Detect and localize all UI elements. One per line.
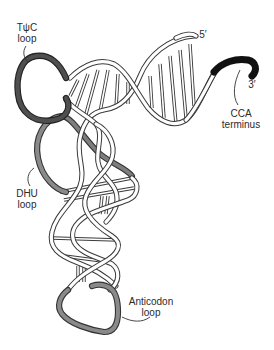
tpsic-loop — [18, 56, 69, 121]
cca-terminus-label: CCA terminus — [216, 108, 266, 130]
cca-label-line1: CCA — [216, 108, 266, 119]
cca-terminus — [214, 60, 255, 77]
three-prime-text: 3′ — [245, 79, 259, 90]
tpsic-label-line1: TψC — [12, 22, 42, 33]
tpsic-loop-label: TψC loop — [12, 22, 42, 44]
trna-diagram: .ribO { fill: none; stroke: #3a3a3a; str… — [0, 0, 274, 350]
cca-pointer — [234, 70, 240, 105]
dhu-label-line2: loop — [12, 199, 42, 210]
anticodon-loop-label: Anticodon loop — [122, 296, 180, 318]
dhu-pointer — [28, 168, 34, 186]
three-prime-label: 3′ — [245, 79, 259, 90]
anticodon-label-line1: Anticodon — [122, 296, 180, 307]
anticodon-label-line2: loop — [122, 307, 180, 318]
dhu-loop-label: DHU loop — [12, 188, 42, 210]
cca-label-line2: terminus — [216, 119, 266, 130]
dhu-label-line1: DHU — [12, 188, 42, 199]
five-prime-text: 5′ — [196, 29, 210, 40]
tpsic-label-line2: loop — [12, 33, 42, 44]
five-prime-label: 5′ — [196, 29, 210, 40]
